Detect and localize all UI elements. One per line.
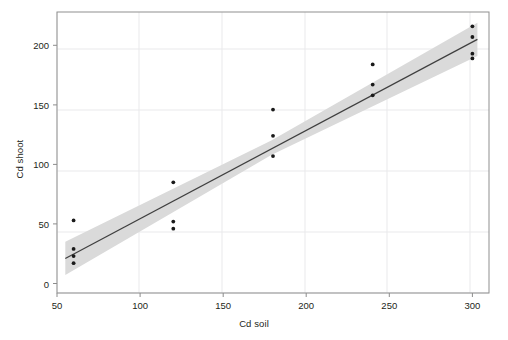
y-tick-label: 200 [0,40,49,51]
y-tick-label: 0 [0,278,49,289]
data-point [371,63,375,67]
x-tick-label: 100 [132,300,148,311]
x-tick-label: 50 [52,300,63,311]
y-tick-label: 150 [0,99,49,110]
data-point [471,35,475,39]
data-point [471,52,475,56]
data-point [72,247,76,251]
y-axis-label: Cd shoot [14,140,25,179]
data-point [271,108,275,112]
data-point [72,261,76,265]
plot-canvas [0,0,508,340]
data-point [171,220,175,224]
x-tick-label: 300 [464,300,480,311]
y-tick-label: 50 [0,218,49,229]
data-point [471,57,475,61]
data-point [72,254,76,258]
x-tick-label: 200 [298,300,314,311]
x-axis-label: Cd soil [239,318,269,329]
x-tick-label: 250 [381,300,397,311]
data-point [371,93,375,97]
data-point [271,134,275,138]
scatter-plot-figure: 050100150200 50100150200250300 Cd shoot … [0,0,508,340]
data-point [171,227,175,231]
x-tick-label: 150 [215,300,231,311]
data-point [371,83,375,87]
data-point [271,154,275,158]
regression-line [65,39,477,258]
data-point [72,219,76,223]
data-point [471,24,475,28]
data-point [171,180,175,184]
